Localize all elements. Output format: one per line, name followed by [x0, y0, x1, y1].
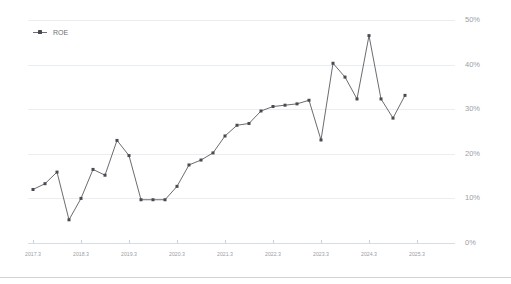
gridlines-group: [28, 21, 455, 244]
x-axis-labels-group: 2017.32018.32019.32020.32021.32022.32023…: [25, 251, 425, 257]
data-point-2021.6: [236, 124, 239, 127]
data-point-2018.3: [80, 197, 83, 200]
data-point-2018.6: [92, 168, 95, 171]
data-point-2023.6: [332, 62, 335, 65]
data-point-2024.12: [404, 94, 407, 97]
data-point-2020.6: [188, 163, 191, 166]
legend-marker-square: [38, 30, 42, 34]
data-point-2019.12: [164, 198, 167, 201]
data-point-2017.12: [68, 218, 71, 221]
y-tick-label-20: 20%: [465, 149, 480, 158]
data-point-2019.3: [128, 154, 131, 157]
data-point-2023.12: [356, 97, 359, 100]
x-tick-label-2019.3: 2019.3: [121, 251, 137, 257]
data-point-2019.9: [152, 198, 155, 201]
x-tick-label-2022.3: 2022.3: [265, 251, 281, 257]
data-point-2023.3: [320, 138, 323, 141]
data-point-2017.9: [56, 171, 59, 174]
data-point-2020.3: [176, 185, 179, 188]
legend-label-roe: ROE: [53, 29, 69, 36]
chart-legend: ROE: [33, 29, 69, 36]
x-tick-label-2020.3: 2020.3: [169, 251, 185, 257]
data-point-2024.9: [392, 117, 395, 120]
data-point-2022.3: [272, 105, 275, 108]
series-roe-markers: [32, 34, 407, 221]
data-point-2024.3: [368, 34, 371, 37]
data-point-2017.3: [32, 188, 35, 191]
y-axis-labels-group: 0%10%20%30%40%50%: [465, 15, 480, 247]
series-roe-group: [32, 34, 407, 221]
series-roe-line: [33, 36, 405, 220]
data-point-2018.9: [104, 174, 107, 177]
x-tick-label-2024.3: 2024.3: [361, 251, 377, 257]
data-point-2018.12: [116, 139, 119, 142]
data-point-2022.6: [284, 104, 287, 107]
y-tick-label-30: 30%: [465, 104, 480, 113]
data-point-2019.6: [140, 198, 143, 201]
y-tick-label-0: 0%: [465, 238, 476, 247]
data-point-2022.12: [308, 99, 311, 102]
x-tick-label-2025.3: 2025.3: [409, 251, 425, 257]
y-tick-label-10: 10%: [465, 193, 480, 202]
x-tick-label-2021.3: 2021.3: [217, 251, 233, 257]
data-point-2024.6: [380, 97, 383, 100]
data-point-2021.3: [224, 134, 227, 137]
data-point-2021.9: [248, 122, 251, 125]
data-point-2020.9: [200, 159, 203, 162]
roe-line-chart: 0%10%20%30%40%50% 2017.32018.32019.32020…: [0, 0, 511, 284]
chart-canvas: 0%10%20%30%40%50% 2017.32018.32019.32020…: [0, 0, 511, 284]
y-tick-label-50: 50%: [465, 15, 480, 24]
x-tick-label-2017.3: 2017.3: [25, 251, 41, 257]
data-point-2021.12: [260, 109, 263, 112]
data-point-2022.9: [296, 102, 299, 105]
x-tick-label-2018.3: 2018.3: [73, 251, 89, 257]
y-tick-label-40: 40%: [465, 60, 480, 69]
data-point-2020.12: [212, 151, 215, 154]
data-point-2023.9: [344, 76, 347, 79]
data-point-2017.6: [44, 182, 47, 185]
x-tick-label-2023.3: 2023.3: [313, 251, 329, 257]
